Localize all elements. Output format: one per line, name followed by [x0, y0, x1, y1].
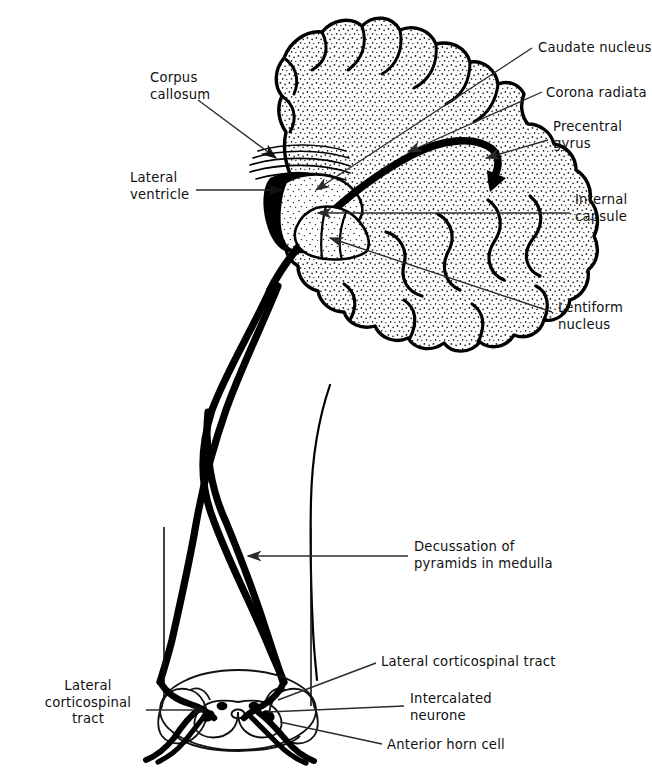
label-lateral-corticospinal-tract-left: Lateral corticospinal tract [8, 678, 168, 728]
label-lentiform-nucleus: Lentiform nucleus [558, 300, 623, 333]
label-caudate-nucleus: Caudate nucleus [538, 40, 652, 57]
label-lateral-corticospinal-tract-right: Lateral corticospinal tract [381, 654, 556, 671]
label-intercalated-neurone: Intercalated neurone [410, 691, 492, 724]
leader-corpus-callosum [198, 100, 276, 158]
label-anterior-horn-cell: Anterior horn cell [387, 737, 505, 754]
label-corpus-callosum: Corpus callosum [150, 70, 210, 103]
label-decussation-of-pyramids: Decussation of pyramids in medulla [414, 539, 553, 572]
label-internal-capsule: Internal capsule [575, 192, 627, 225]
label-corona-radiata: Corona radiata [546, 85, 647, 102]
corticospinal-tract-main [178, 290, 284, 682]
label-precentral-gyrus: Precentral gyrus [553, 119, 622, 152]
thin-descending-line [311, 385, 330, 680]
label-lateral-ventricle: Lateral ventricle [130, 170, 189, 203]
decussating-tract [160, 286, 283, 682]
leader-intercalated-neurone [268, 706, 404, 712]
